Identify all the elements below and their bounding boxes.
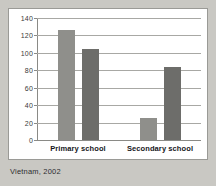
bars-group <box>38 19 201 140</box>
y-tick-mark <box>34 35 37 36</box>
y-tick-mark <box>34 140 37 141</box>
chart-panel: 020406080100120140 Primary schoolSeconda… <box>8 8 208 160</box>
y-tick-mark <box>34 123 37 124</box>
y-tick-mark <box>34 18 37 19</box>
y-tick-label: 120 <box>21 32 33 39</box>
y-tick-label: 0 <box>29 137 33 144</box>
y-tick-label: 140 <box>21 15 33 22</box>
y-tick-mark <box>34 88 37 89</box>
y-tick-mark <box>34 105 37 106</box>
category-label: Secondary school <box>127 144 193 153</box>
bar <box>82 49 99 140</box>
category-label: Primary school <box>50 144 106 153</box>
y-tick-label: 40 <box>25 102 33 109</box>
bar <box>140 118 157 140</box>
plot-area: 020406080100120140 Primary schoolSeconda… <box>37 19 201 141</box>
gridline: 0 <box>37 140 201 141</box>
bar <box>58 30 75 140</box>
y-tick-mark <box>34 53 37 54</box>
y-tick-label: 100 <box>21 49 33 56</box>
bar <box>164 67 181 140</box>
caption-label: Vietnam, 2002 <box>10 167 61 176</box>
chart-figure: 020406080100120140 Primary schoolSeconda… <box>0 0 216 186</box>
y-tick-mark <box>34 70 37 71</box>
y-tick-label: 80 <box>25 67 33 74</box>
y-tick-label: 20 <box>25 119 33 126</box>
y-tick-label: 60 <box>25 84 33 91</box>
caption-strip: Vietnam, 2002 <box>8 164 208 180</box>
